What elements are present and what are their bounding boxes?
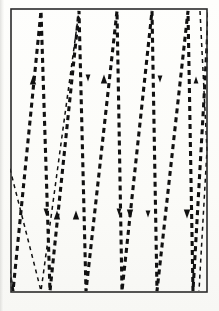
diagram-frame (11, 9, 207, 292)
zigzag-diagram (0, 0, 219, 311)
direction-arrow-up-4 (194, 77, 199, 84)
direction-arrow-down-11 (184, 210, 190, 219)
direction-arrow-down-1 (86, 75, 91, 82)
figure-root (0, 0, 219, 311)
zigzag-main-path (0, 11, 209, 291)
direction-arrow-down-3 (158, 76, 163, 83)
direction-arrow-up-2 (101, 75, 107, 84)
direction-arrow-down-9 (127, 210, 133, 219)
direction-arrow-up-7 (73, 211, 79, 220)
direction-arrow-down-10 (146, 211, 151, 218)
zigzag-trace-layer (0, 11, 209, 291)
